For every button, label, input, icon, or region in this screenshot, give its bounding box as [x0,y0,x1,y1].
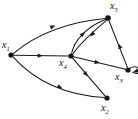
node-x5 [105,15,111,21]
node-label-subscript-x4: 4 [63,63,66,70]
edge-x3-to-x5 [109,21,127,68]
graph-figure: x1x2x3x4x5 [0,0,138,119]
node-label-subscript-x5: 5 [114,6,117,13]
node-label-x3: x3 [115,72,123,85]
node-x3 [125,67,130,72]
node-label-x4: x4 [59,58,67,71]
arrowhead-x5-to-x4 [88,31,95,38]
edge-x1-to-x5 [13,19,105,54]
arrowhead-x1-to-x5 [50,24,57,30]
edge-x4-to-x2 [73,58,106,96]
node-label-x2: x2 [101,103,109,116]
node-x1 [8,52,13,57]
arrowhead-x3-to-x5 [116,43,122,50]
arrowhead-x1-to-x4 [38,53,43,57]
graph-canvas [0,0,138,119]
edge-x5-to-x4 [73,20,107,54]
node-x4 [68,53,73,58]
arrowhead-x4-to-x3 [94,60,100,66]
edges-layer [13,19,138,98]
node-label-x1: x1 [2,40,10,53]
node-label-x5: x5 [110,1,118,14]
node-label-subscript-x1: 1 [6,45,9,52]
node-x2 [104,95,109,100]
node-label-subscript-x2: 2 [105,108,108,115]
node-label-subscript-x3: 3 [119,77,122,84]
